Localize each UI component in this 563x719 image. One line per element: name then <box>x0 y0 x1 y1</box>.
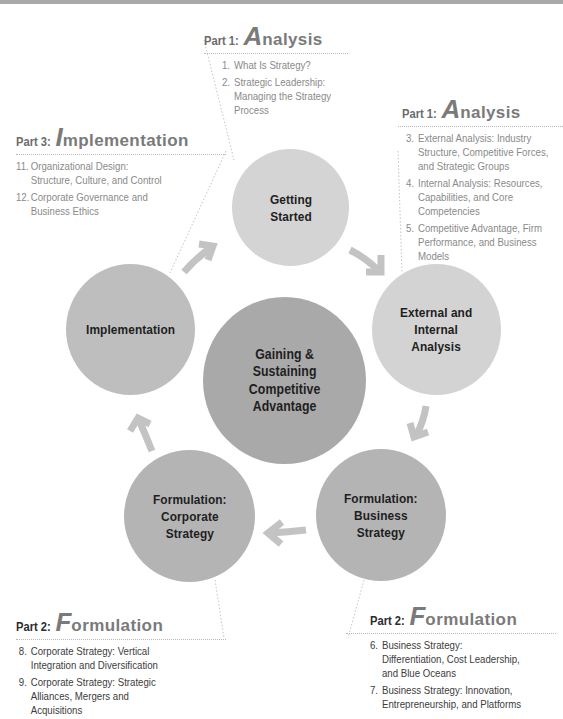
part-title: nalysis <box>262 30 322 50</box>
chapter-item: 3.External Analysis: Industry Structure,… <box>406 131 558 173</box>
chapter-list: 11.Organizational Design: Structure, Cul… <box>16 159 186 218</box>
part-initial: A <box>243 24 262 48</box>
part-prefix: Part 2: <box>16 619 51 634</box>
part-title: ormulation <box>71 616 163 636</box>
dotted-rule <box>204 53 348 54</box>
arrow-getting-started-to-external <box>350 250 378 270</box>
part-prefix: Part 2: <box>370 613 405 628</box>
dotted-rule <box>346 633 556 634</box>
part-initial: F <box>409 604 425 628</box>
chapter-item: 1.What Is Strategy? <box>222 58 338 72</box>
circle-implementation: Implementation <box>66 264 195 395</box>
part-analysis-top: Part 1: A nalysis 1.What Is Strategy? 2.… <box>204 24 348 120</box>
part-heading: Part 2: F ormulation <box>346 604 556 633</box>
part-implementation: Part 3: I mplementation 11.Organizationa… <box>16 125 226 221</box>
chapter-list: 6.Business Strategy: Differentiation, Co… <box>370 638 540 711</box>
dotted-rule <box>16 154 226 155</box>
circle-external-internal-analysis: External and Internal Analysis <box>372 264 501 395</box>
chapter-item: 4.Internal Analysis: Resources, Capabili… <box>406 176 558 218</box>
part-initial: F <box>55 610 71 634</box>
chapter-list: 3.External Analysis: Industry Structure,… <box>406 131 563 263</box>
part-heading: Part 1: A nalysis <box>398 97 563 126</box>
chapter-item: 9.Corporate Strategy: Strategic Alliance… <box>16 675 182 717</box>
circle-label: External and Internal Analysis <box>400 304 472 355</box>
part-initial: A <box>441 97 460 121</box>
circle-formulation-business: Formulation: Business Strategy <box>316 449 446 581</box>
chapter-list: 1.What Is Strategy? 2.Strategic Leadersh… <box>222 58 348 117</box>
circle-label: Implementation <box>86 321 175 338</box>
circle-formulation-corporate: Formulation: Corporate Strategy <box>124 450 255 582</box>
part-prefix: Part 1: <box>204 33 239 48</box>
circle-label: Formulation: Business Strategy <box>344 490 418 541</box>
chapter-item: 5.Competitive Advantage, Firm Performanc… <box>406 221 558 263</box>
circle-getting-started: Getting Started <box>232 149 349 266</box>
part-formulation-right: Part 2: F ormulation 6.Business Strategy… <box>346 604 556 714</box>
chapter-list: 8.Corporate Strategy: Vertical Integrati… <box>16 644 196 719</box>
part-analysis-right: Part 1: A nalysis 3.External Analysis: I… <box>398 97 563 266</box>
part-title: mplementation <box>63 131 189 151</box>
part-title: ormulation <box>425 610 517 630</box>
part-formulation-left: Part 2: F ormulation 8.Corporate Strateg… <box>16 610 226 719</box>
dotted-rule <box>16 639 226 640</box>
chapter-item: 8.Corporate Strategy: Vertical Integrati… <box>16 644 182 672</box>
circle-competitive-advantage: Gaining & Sustaining Competitive Advanta… <box>203 297 366 464</box>
part-heading: Part 2: F ormulation <box>16 610 226 639</box>
circle-label: Gaining & Sustaining Competitive Advanta… <box>249 346 320 416</box>
part-title: nalysis <box>460 103 520 123</box>
part-initial: I <box>55 125 62 149</box>
part-heading: Part 3: I mplementation <box>16 125 226 154</box>
circle-label: Getting Started <box>269 191 311 225</box>
chapter-item: 2.Strategic Leadership: Managing the Str… <box>222 75 338 117</box>
chapter-item: 7.Business Strategy: Innovation, Entrepr… <box>370 683 526 711</box>
chapter-item: 12.Corporate Governance and Business Eth… <box>16 190 172 218</box>
strategy-process-diagram: Getting Started External and Internal An… <box>0 0 563 719</box>
part-heading: Part 1: A nalysis <box>204 24 348 53</box>
part-prefix: Part 1: <box>402 106 437 121</box>
circle-label: Formulation: Corporate Strategy <box>153 491 227 542</box>
chapter-item: 11.Organizational Design: Structure, Cul… <box>16 159 172 187</box>
chapter-item: 6.Business Strategy: Differentiation, Co… <box>370 638 526 680</box>
dotted-rule <box>398 126 563 127</box>
part-prefix: Part 3: <box>16 134 51 149</box>
